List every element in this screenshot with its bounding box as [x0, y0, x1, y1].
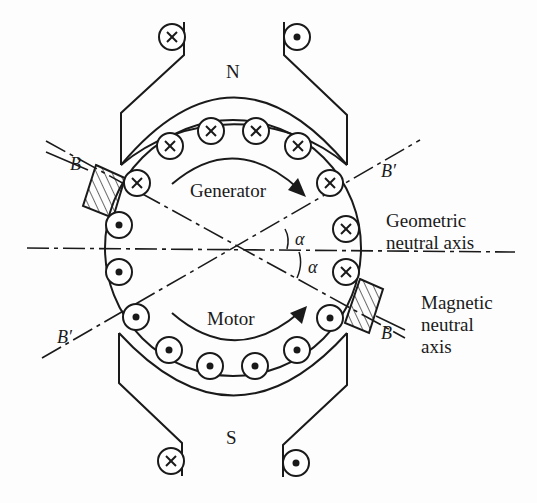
b-prime-label-lower: B′	[57, 328, 72, 346]
generator-label: Generator	[190, 181, 266, 200]
south-pole	[119, 333, 347, 477]
brush-label-b-left: B	[70, 155, 81, 173]
field-coil-top-right-icon	[284, 24, 310, 50]
geometric-axis-label-line1: Geometric	[386, 211, 466, 230]
field-coil-bottom-left-icon	[158, 448, 184, 474]
field-coil-top-left-icon	[159, 24, 185, 50]
magnetic-axis-label-line3: axis	[421, 337, 452, 356]
north-pole-label: N	[226, 62, 240, 81]
brush-left	[83, 165, 125, 218]
dc-machine-diagram: N S Generator Motor Geometric neutral ax…	[0, 0, 537, 503]
field-coil-bottom-right-icon	[283, 450, 309, 476]
motor-label: Motor	[207, 309, 255, 328]
brush-label-b-right: B	[381, 324, 392, 342]
magnetic-axis-label-line2: neutral	[421, 315, 474, 334]
alpha-label-upper: α	[295, 230, 304, 248]
north-pole	[121, 22, 347, 165]
armature-conductors-cross	[124, 118, 359, 285]
brush-right	[345, 279, 383, 333]
south-pole-label: S	[226, 428, 237, 447]
geometric-axis-label-line2: neutral axis	[386, 233, 474, 252]
b-prime-label-upper: B′	[381, 162, 396, 180]
north-pole-face	[121, 98, 347, 166]
magnetic-axis-label-line1: Magnetic	[421, 293, 493, 312]
alpha-label-lower: α	[308, 258, 317, 276]
